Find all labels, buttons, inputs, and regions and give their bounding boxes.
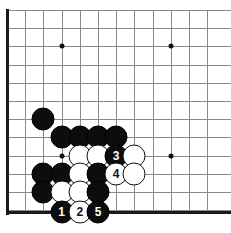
move-number: 1 <box>58 206 65 218</box>
go-board-diagram: 34125 <box>0 0 231 233</box>
board-edge-bottom <box>6 211 231 214</box>
star-point <box>59 44 64 49</box>
move-number: 3 <box>113 149 120 161</box>
grid-line-vertical <box>153 10 154 214</box>
grid-line-horizontal <box>7 46 231 47</box>
grid-line-vertical <box>207 10 208 214</box>
grid-line-horizontal <box>7 101 231 102</box>
stone-white <box>123 162 146 185</box>
grid-line-horizontal <box>7 65 231 66</box>
grid-line-horizontal <box>7 83 231 84</box>
grid-line-horizontal <box>7 28 231 29</box>
move-number: 4 <box>113 167 120 179</box>
grid-line-vertical <box>25 10 26 214</box>
board-edge-left <box>6 9 9 215</box>
stone-black <box>32 108 55 131</box>
grid-line-vertical <box>171 10 172 214</box>
move-number: 5 <box>95 206 102 218</box>
move-number: 2 <box>76 206 83 218</box>
star-point <box>168 153 173 158</box>
star-point <box>168 44 173 49</box>
grid-line-horizontal <box>7 10 231 11</box>
stone-black-move-5: 5 <box>87 201 110 224</box>
grid-line-vertical <box>189 10 190 214</box>
star-point <box>59 153 64 158</box>
